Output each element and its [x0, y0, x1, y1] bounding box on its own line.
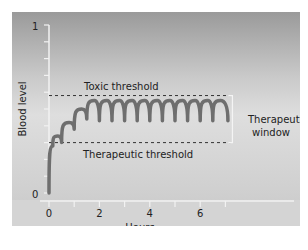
x-tick-label-6: 6 [197, 208, 203, 219]
y-axis-title: Blood level [17, 81, 28, 136]
therapeutic-window-label-line1: Therapeutic [247, 114, 300, 125]
x-ticks [49, 201, 225, 207]
y-tick-label-1: 1 [32, 21, 38, 32]
x-tick-label-0: 0 [46, 208, 52, 219]
therapeutic-threshold-label: Therapeutic threshold [82, 149, 193, 160]
toxic-threshold-label: Toxic threshold [83, 81, 159, 92]
x-tick-label-2: 2 [96, 208, 102, 219]
chart-svg: 1 0 Blood level 0 2 4 6 Hours Toxic thre… [12, 12, 300, 226]
therapeutic-window-label-line2: window [252, 127, 290, 138]
x-axis-title: Hours [125, 222, 154, 226]
blood-level-curve [49, 101, 228, 193]
x-tick-label-4: 4 [147, 208, 153, 219]
y-tick-label-0: 0 [32, 189, 38, 200]
chart-panel: 1 0 Blood level 0 2 4 6 Hours Toxic thre… [12, 12, 300, 226]
